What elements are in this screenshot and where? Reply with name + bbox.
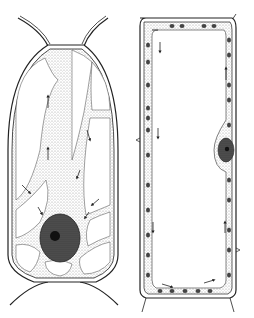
nucleolus [50,231,60,241]
right-cell [136,14,240,312]
left-cell [8,16,118,305]
cell-illustration [0,0,254,318]
nucleus [40,214,80,262]
